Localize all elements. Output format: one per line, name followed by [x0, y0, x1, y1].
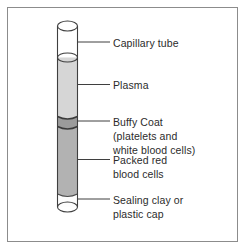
label-line: plastic cap	[113, 207, 183, 221]
label-buffy-coat: Buffy Coat (platelets and white blood ce…	[113, 115, 195, 157]
label-line: Capillary tube	[113, 36, 179, 50]
packed-red-cells-layer	[58, 127, 78, 197]
label-sealing-clay: Sealing clay or plastic cap	[113, 193, 183, 221]
label-line: Packed red	[113, 153, 167, 167]
label-line: Sealing clay or	[113, 193, 183, 207]
label-line: (platelets and	[113, 129, 195, 143]
tube-top-opening	[58, 21, 78, 31]
capillary-tube-figure: Capillary tube Plasma Buffy Coat (platel…	[0, 0, 246, 249]
label-line: Buffy Coat	[113, 115, 195, 129]
label-line: Plasma	[113, 78, 149, 92]
label-capillary-tube: Capillary tube	[113, 36, 179, 50]
label-line: blood cells	[113, 167, 167, 181]
label-packed-red-blood-cells: Packed red blood cells	[113, 153, 167, 181]
plasma-layer	[58, 58, 78, 120]
label-plasma: Plasma	[113, 78, 149, 92]
